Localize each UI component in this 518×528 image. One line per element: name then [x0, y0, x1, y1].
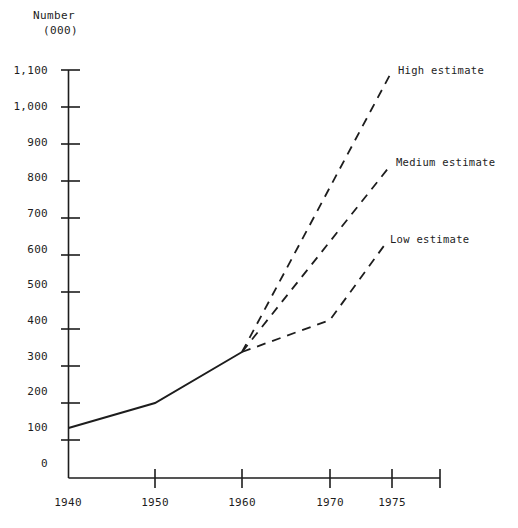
series-line-low-estimate — [242, 243, 386, 352]
series-line-actual — [69, 352, 243, 428]
series-line-medium-estimate — [242, 166, 390, 352]
series-line-high-estimate — [242, 71, 392, 352]
plot-area — [0, 0, 518, 528]
chart-figure: Number (000) 1,100 1,000 900 800 700 600… — [0, 0, 518, 528]
